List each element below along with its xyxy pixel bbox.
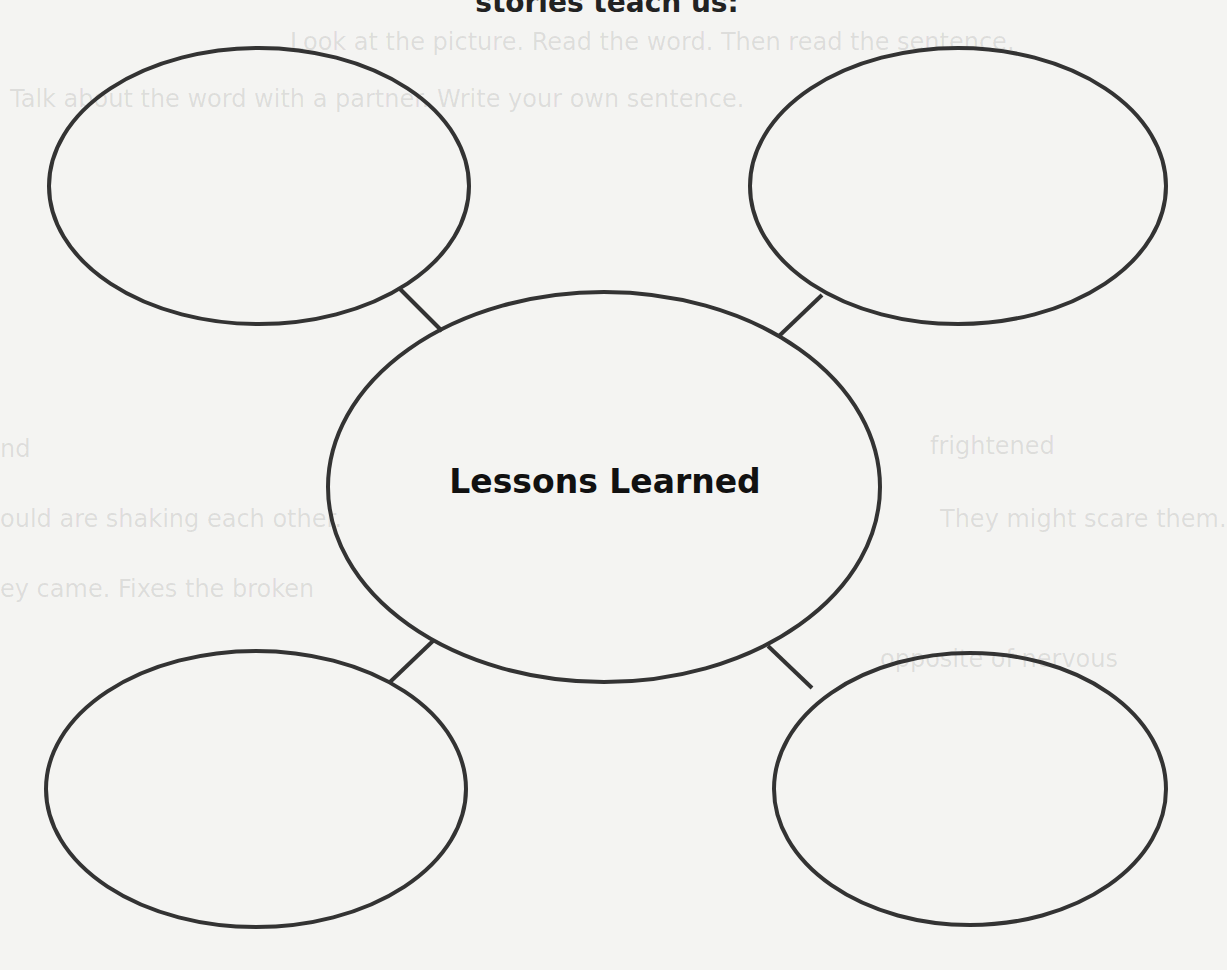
node-top-right[interactable]	[750, 48, 1166, 324]
connector-top-right	[778, 295, 822, 337]
node-bottom-left[interactable]	[46, 651, 466, 927]
node-top-left[interactable]	[49, 48, 469, 324]
connector-top-left	[400, 289, 442, 331]
connector-bottom-left	[390, 640, 434, 682]
center-label: Lessons Learned	[330, 462, 880, 501]
node-bottom-right[interactable]	[774, 653, 1166, 925]
connector-bottom-right	[768, 646, 812, 688]
